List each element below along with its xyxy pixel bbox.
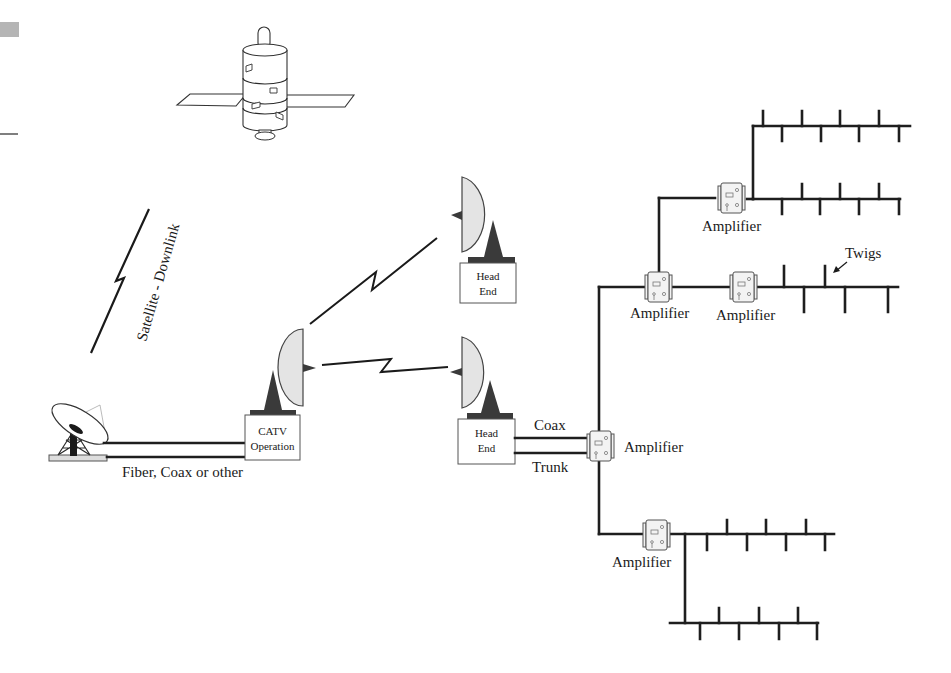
svg-text:Head: Head <box>475 427 499 439</box>
head-end-2-dish-icon <box>450 337 513 419</box>
microwave-link-bolt-icon <box>310 238 437 324</box>
svg-text:End: End <box>478 442 496 454</box>
amplifier-label: Amplifier <box>612 554 671 570</box>
svg-text:CATV: CATV <box>258 425 287 437</box>
head-end-1-dish-icon <box>451 177 515 263</box>
amplifier-icon <box>730 272 757 302</box>
head-end-1-box: Head End <box>460 263 516 303</box>
amplifier-label: Amplifier <box>716 307 775 323</box>
satellite-icon <box>177 27 354 140</box>
satellite-downlink-label: Satellite - Downlink <box>134 221 183 343</box>
catv-operation-box: CATV Operation <box>245 415 300 460</box>
amplifier-label: Amplifier <box>624 439 683 455</box>
coax-label: Coax <box>534 417 566 433</box>
twigs-arrow-icon <box>833 262 847 273</box>
svg-text:Operation: Operation <box>251 440 295 452</box>
amplifier-icon <box>587 431 614 461</box>
fiber-link-label: Fiber, Coax or other <box>122 464 243 480</box>
amplifier-icon <box>718 183 745 213</box>
ground-station-dish-icon <box>46 396 114 461</box>
svg-text:Head: Head <box>476 270 500 282</box>
head-end-2-box: Head End <box>458 419 515 464</box>
trunk-label: Trunk <box>532 459 569 475</box>
catv-network-diagram: Satellite - Downlink Fiber, Coax or othe… <box>0 0 951 673</box>
amplifier-label: Amplifier <box>630 305 689 321</box>
amplifier-icon <box>643 520 670 550</box>
amplifier-label: Amplifier <box>702 218 761 234</box>
microwave-link-bolt-icon <box>322 359 448 372</box>
amplifier-icon <box>645 272 672 302</box>
svg-text:End: End <box>479 285 497 297</box>
twigs-label: Twigs <box>845 245 882 261</box>
catv-microwave-dish-icon <box>250 329 316 415</box>
page-edge-mark <box>0 22 19 37</box>
